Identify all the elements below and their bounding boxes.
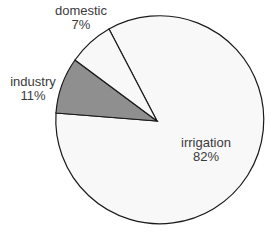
label-industry-pct: 11% bbox=[10, 89, 56, 103]
label-domestic-pct: 7% bbox=[50, 18, 112, 32]
label-domestic: domestic 7% bbox=[50, 4, 112, 32]
label-irrigation: irrigation 82% bbox=[176, 136, 236, 164]
label-domestic-name: domestic bbox=[50, 4, 112, 18]
pie-chart bbox=[0, 0, 272, 243]
label-industry: industry 11% bbox=[10, 75, 56, 103]
label-irrigation-pct: 82% bbox=[176, 150, 236, 164]
label-industry-name: industry bbox=[10, 75, 56, 89]
label-irrigation-name: irrigation bbox=[176, 136, 236, 150]
